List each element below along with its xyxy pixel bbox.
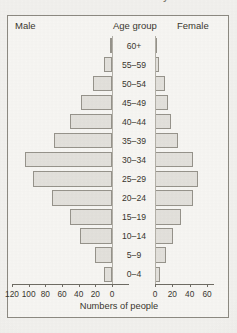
tick-mark-male [12,284,13,287]
tick-label-male: 20 [91,289,100,299]
tick-mark-male [95,284,96,287]
age-group-label: 25–29 [112,170,156,189]
age-group-label: 50–54 [112,74,156,93]
age-group-label: 60+ [112,36,156,55]
bar-male [25,152,113,167]
chart-header: Male Age group Female [8,16,228,36]
age-group-label: 20–24 [112,189,156,208]
age-group-label: 40–44 [112,112,156,131]
bar-male [93,76,112,91]
bar-female [155,95,168,110]
bar-female [155,228,173,243]
age-group-column-label: Age group [113,20,157,31]
pyramid-row: 5–9 [8,246,230,265]
tick-mark-male [112,284,113,287]
cropped-caption-strip: of B levels in a South American city [0,0,237,11]
age-group-label: 45–49 [112,93,156,112]
bar-female [155,76,165,91]
pyramid-row: 35–39 [8,131,230,150]
tick-mark-female [207,284,208,287]
pyramid-row: 45–49 [8,93,230,112]
tick-label-male: 80 [41,289,50,299]
female-column-label: Female [177,20,209,31]
tick-label-male: 120 [5,289,19,299]
bar-female [155,209,181,224]
tick-mark-male [79,284,80,287]
age-group-label: 35–39 [112,131,156,150]
x-axes: Numbers of people 1201008060402000204060 [8,284,230,319]
tick-mark-female [190,284,191,287]
bar-female [155,171,198,186]
bar-male [70,114,112,129]
tick-label-male: 100 [22,289,36,299]
pyramid-row: 25–29 [8,170,230,189]
tick-label-female: 60 [202,289,211,299]
female-axis-line [156,284,214,285]
tick-label-female: 20 [168,289,177,299]
tick-label-male: 0 [110,289,115,299]
tick-mark-male [45,284,46,287]
bar-male [95,247,112,262]
pyramid-row: 20–24 [8,189,230,208]
bar-male [33,171,112,186]
bar-male [70,209,112,224]
pyramid-plot-area: 60+55–5950–5445–4940–4435–3930–3425–2920… [8,36,230,284]
pyramid-row: 10–14 [8,227,230,246]
tick-label-female: 0 [153,289,158,299]
pyramid-row: 0–4 [8,265,230,284]
caption-text: of B levels in a South American city [4,0,168,2]
x-axis-title: Numbers of people [8,301,230,311]
age-group-label: 55–59 [112,55,156,74]
tick-mark-female [155,284,156,287]
tick-mark-male [29,284,30,287]
pyramid-row: 15–19 [8,208,230,227]
male-column-label: Male [15,20,36,31]
pyramid-row: 55–59 [8,55,230,74]
bar-male [80,228,112,243]
pyramid-row: 50–54 [8,74,230,93]
age-group-label: 5–9 [112,246,156,265]
bar-female [155,152,193,167]
tick-label-male: 40 [74,289,83,299]
bar-female [155,247,166,262]
age-group-label: 30–34 [112,150,156,169]
age-group-label: 15–19 [112,208,156,227]
tick-mark-female [172,284,173,287]
tick-label-male: 60 [57,289,66,299]
tick-label-female: 40 [185,289,194,299]
age-group-label: 10–14 [112,227,156,246]
bar-female [155,133,178,148]
pyramid-row: 30–34 [8,150,230,169]
bar-female [155,190,193,205]
pyramid-row: 60+ [8,36,230,55]
pyramid-row: 40–44 [8,112,230,131]
bar-male [104,267,112,282]
bar-female [155,114,171,129]
bar-male [104,57,112,72]
bar-male [52,190,112,205]
bar-male [54,133,112,148]
tick-mark-male [62,284,63,287]
age-group-label: 0–4 [112,265,156,284]
figure-panel: Male Age group Female 60+55–5950–5445–49… [7,15,229,318]
bar-male [81,95,112,110]
